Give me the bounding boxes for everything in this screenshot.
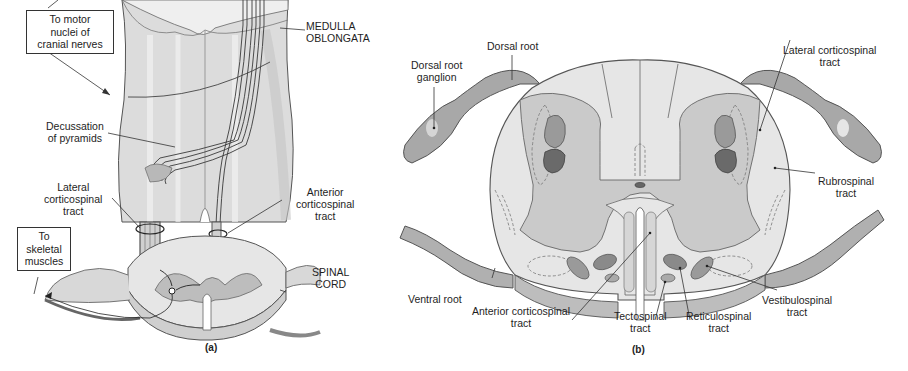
- label-line: Reticulospinal: [686, 310, 751, 322]
- caption-b: (b): [632, 344, 645, 355]
- label-line: ganglion: [411, 71, 462, 83]
- label-line: Lateral corticospinal: [783, 44, 876, 56]
- label-line: tract: [783, 56, 876, 68]
- label-vestibulospinal: Vestibulospinal tract: [762, 294, 832, 318]
- label-line: Rubrospinal: [818, 175, 874, 187]
- label-dorsal-root-ganglion: Dorsal root ganglion: [411, 59, 462, 83]
- label-line: tract: [614, 322, 667, 334]
- label-line: tract: [818, 187, 874, 199]
- label-dorsal-root: Dorsal root: [487, 40, 538, 52]
- label-line: tract: [472, 317, 570, 329]
- label-line: Tectospinal: [614, 310, 667, 322]
- label-line: tract: [686, 322, 751, 334]
- label-line: Anterior corticospinal: [472, 305, 570, 317]
- label-line: Dorsal root: [487, 40, 538, 52]
- label-line: Dorsal root: [411, 59, 462, 71]
- label-line: Vestibulospinal: [762, 294, 832, 306]
- label-line: tract: [762, 306, 832, 318]
- label-anterior-corticospinal-b: Anterior corticospinal tract: [472, 305, 570, 329]
- label-lateral-corticospinal-b: Lateral corticospinal tract: [783, 44, 876, 68]
- label-rubrospinal: Rubrospinal tract: [818, 175, 874, 199]
- label-tectospinal: Tectospinal tract: [614, 310, 667, 334]
- label-ventral-root: Ventral root: [408, 293, 462, 305]
- label-reticulospinal: Reticulospinal tract: [686, 310, 751, 334]
- label-line: Ventral root: [408, 293, 462, 305]
